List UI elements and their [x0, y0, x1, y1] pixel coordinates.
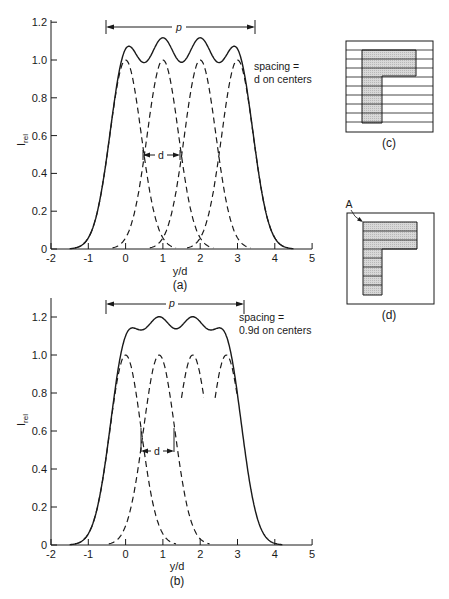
chart-b-y-label: Irel: [15, 414, 30, 426]
chart-a-y-label: Irel: [15, 134, 30, 146]
diagram-d-panel-label: (d): [382, 308, 397, 322]
chart-b-annotation-line2: 0.9d on centers: [239, 324, 311, 336]
chart-a-y-ticks: 00.20.40.60.81.01.2: [32, 16, 57, 255]
dashed-line-profile: [182, 355, 204, 398]
diagram-c-panel-label: (c): [382, 136, 396, 150]
chart-a-annotation-line2: d on centers: [254, 73, 312, 85]
y-tick-label: 0.4: [32, 463, 47, 475]
chart-a-x-label: y/d: [173, 265, 188, 277]
x-tick-label: -1: [83, 548, 93, 560]
x-tick-label: 2: [197, 548, 203, 560]
chart-b-p-arrow: [106, 300, 244, 314]
diagram-d: A (d): [345, 198, 434, 322]
x-tick-label: 0: [123, 548, 129, 560]
y-tick-label: 0.8: [32, 387, 47, 399]
y-tick-label: 0.8: [32, 92, 47, 104]
x-tick-label: -2: [46, 252, 56, 264]
y-tick-label: 0.6: [32, 130, 47, 142]
chart-a-axes: [51, 20, 312, 249]
y-tick-label: 0.2: [32, 205, 47, 217]
chart-a-d-label: d: [158, 149, 164, 161]
chart-b: 00.20.40.60.81.01.2 -2-1012345 p d spaci…: [15, 297, 315, 588]
y-tick-label: 1.2: [32, 311, 47, 323]
y-tick-label: 0.6: [32, 425, 47, 437]
sum-profile: [70, 317, 283, 545]
dashed-line-profile: [150, 60, 251, 248]
chart-b-curves: [70, 317, 283, 545]
chart-b-panel-label: (b): [170, 574, 185, 588]
chart-a-x-ticks: -2-1012345: [46, 243, 315, 264]
chart-b-d-label: d: [154, 445, 160, 457]
dashed-line-profile: [215, 355, 237, 398]
x-tick-label: -2: [46, 548, 56, 560]
x-tick-label: -1: [83, 252, 93, 264]
y-tick-label: 1.0: [32, 54, 47, 66]
chart-a-p-label: p: [175, 21, 182, 33]
x-tick-label: 2: [197, 252, 203, 264]
x-tick-label: 5: [309, 252, 315, 264]
y-tick-label: 1.0: [32, 349, 47, 361]
figure: 00.20.40.60.81.01.2 -2-1012345 p d spaci…: [0, 0, 449, 599]
dashed-line-profile: [187, 60, 288, 248]
x-tick-label: 5: [309, 548, 315, 560]
x-tick-label: 1: [160, 252, 166, 264]
x-tick-label: 3: [234, 548, 240, 560]
x-tick-label: 3: [234, 252, 240, 264]
dashed-line-profile: [75, 355, 176, 544]
y-tick-label: 1.2: [32, 16, 47, 28]
x-tick-label: 4: [272, 548, 278, 560]
y-tick-label: 0.2: [32, 501, 47, 513]
chart-a-annotation-line1: spacing =: [254, 60, 299, 72]
chart-b-x-label: y/d: [170, 560, 185, 572]
x-tick-label: 4: [272, 252, 278, 264]
x-tick-label: 1: [160, 548, 166, 560]
diagram-c: (c): [346, 41, 433, 150]
x-tick-label: 0: [123, 252, 129, 264]
chart-b-p-label: p: [168, 297, 175, 309]
y-tick-label: 0.4: [32, 167, 47, 179]
chart-a: 00.20.40.60.81.01.2 -2-1012345 p d spaci…: [15, 16, 315, 292]
chart-b-y-ticks: 00.20.40.60.81.01.2: [32, 311, 57, 551]
chart-a-panel-label: (a): [173, 278, 188, 292]
chart-b-x-ticks: -2-1012345: [46, 539, 315, 560]
chart-b-annotation-line1: spacing =: [239, 311, 284, 323]
diagram-d-point-a-label: A: [345, 198, 352, 210]
